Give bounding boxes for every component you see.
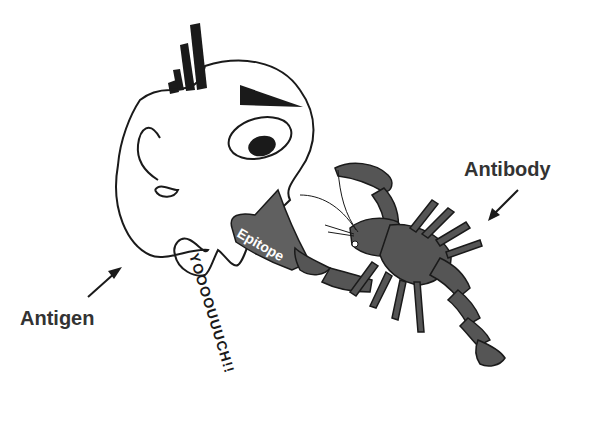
antigen-arrow-icon xyxy=(88,267,122,297)
scream-label: YOOOOUUUCH!! xyxy=(186,251,238,375)
ear-outline xyxy=(138,128,178,197)
antennae-icon xyxy=(300,170,358,236)
antigen-label: Antigen xyxy=(20,307,94,330)
crayfish-eye-icon xyxy=(352,241,358,247)
eyebrow-icon xyxy=(240,85,303,107)
antibody-arrow-icon xyxy=(488,190,518,221)
antigen-antibody-illustration: Epitope YOOOOUUUCH!! xyxy=(0,0,594,421)
hair-icon xyxy=(168,23,207,94)
antibody-crayfish-icon xyxy=(295,163,505,366)
antibody-label: Antibody xyxy=(464,158,551,181)
